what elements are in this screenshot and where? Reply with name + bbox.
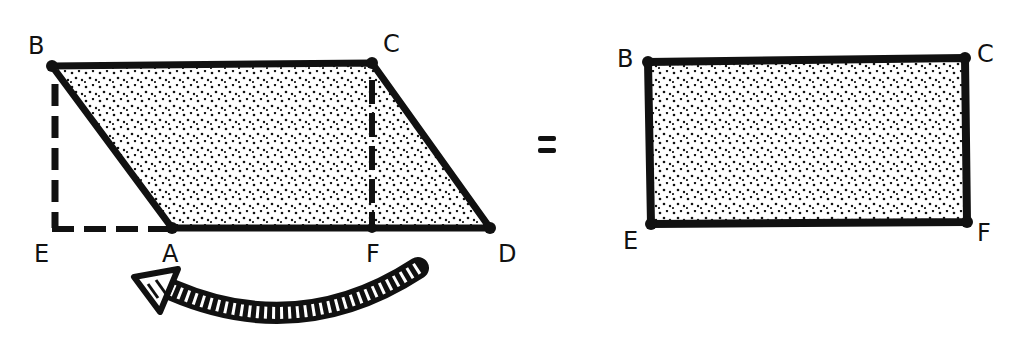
- label-e: E: [623, 227, 638, 255]
- label-c: C: [383, 30, 400, 58]
- label-b: B: [28, 32, 44, 60]
- vertex-b: [642, 56, 654, 68]
- vertex-d: [484, 222, 496, 234]
- label-b: B: [617, 45, 633, 73]
- vertex-a: [166, 222, 178, 234]
- vertex-b: [46, 60, 58, 72]
- curved-arrow-icon: [134, 268, 418, 313]
- parallelogram-fill: [52, 63, 490, 228]
- label-d: D: [498, 240, 516, 268]
- vertex-f: [961, 216, 973, 228]
- label-e: E: [34, 240, 49, 268]
- diagram-canvas: B C D E A F B C E F: [0, 0, 1027, 337]
- label-f: F: [366, 240, 380, 268]
- vertex-e: [645, 218, 657, 230]
- equals-sign: [538, 136, 556, 153]
- parallelogram-figure: B C D E A F: [28, 30, 516, 268]
- vertex-c: [959, 52, 971, 64]
- label-f: F: [977, 219, 991, 247]
- rectangle-fill: [648, 58, 967, 224]
- label-a: A: [162, 240, 179, 268]
- label-c: C: [977, 40, 994, 68]
- vertex-f: [367, 223, 377, 233]
- rectangle-figure: B C E F: [617, 40, 994, 255]
- vertex-c: [366, 57, 378, 69]
